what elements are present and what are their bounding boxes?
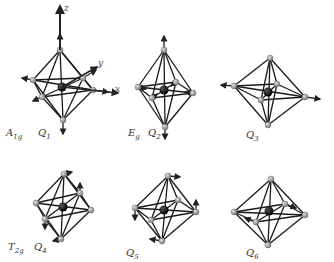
ligand-atom-front: [42, 216, 48, 222]
edge: [135, 208, 162, 241]
mode-panels: [22, 34, 320, 248]
ligand-atom-bottom: [265, 122, 271, 128]
ligand-atom-bottom: [58, 236, 64, 242]
ligand-atom-left: [132, 205, 138, 211]
ligand-atom-back: [77, 190, 83, 196]
edge: [168, 176, 196, 212]
ligand-atom-front: [39, 94, 45, 100]
edge: [63, 90, 93, 120]
edge: [33, 50, 60, 80]
ligand-atom-back: [282, 201, 288, 207]
ligand-atom-bottom: [60, 117, 66, 123]
label-t2g: T2g: [8, 242, 24, 255]
edge: [42, 97, 63, 120]
label-q1: Q1: [38, 128, 51, 141]
ligand-atom-bottom: [162, 124, 168, 130]
edge: [152, 98, 165, 127]
edge: [234, 84, 277, 86]
octahedron-q5: [132, 173, 199, 244]
octahedron-q1: [22, 34, 108, 134]
axis-label-x: x: [115, 85, 120, 94]
central-atom: [265, 207, 274, 216]
ligand-atom-right: [190, 90, 196, 96]
ligand-atom-left: [231, 209, 237, 215]
ligand-atom-right: [193, 209, 199, 215]
ligand-atom-back: [274, 81, 280, 87]
ligand-atom-left: [33, 200, 39, 206]
central-atom: [160, 86, 169, 95]
axis-label-z: z: [64, 4, 69, 13]
label-q5: Q5: [126, 248, 139, 261]
octahedron-q4: [33, 171, 94, 242]
label-q3: Q3: [246, 130, 259, 143]
ligand-atom-top: [165, 173, 171, 179]
ligand-atom-front: [148, 217, 154, 223]
label-q4: Q4: [34, 242, 47, 255]
edge: [168, 176, 178, 200]
edge: [45, 219, 61, 239]
ligand-atom-bottom: [159, 238, 165, 244]
edge: [234, 212, 268, 245]
edge: [261, 97, 305, 100]
label-q2: Q2: [148, 128, 161, 141]
central-atom: [59, 203, 68, 212]
ligand-atom-left: [135, 84, 141, 90]
central-atom: [160, 206, 169, 215]
ligand-atom-front: [253, 219, 259, 225]
ligand-atom-bottom: [265, 242, 271, 248]
ligand-atom-top: [61, 171, 67, 177]
ligand-atom-right: [88, 207, 94, 213]
ligand-atom-back: [173, 79, 179, 85]
edge: [138, 50, 164, 87]
label-a1g: A1g: [6, 128, 22, 141]
ligand-atom-front: [258, 97, 264, 103]
edge: [36, 174, 64, 203]
coordinate-axes: [60, 6, 118, 93]
ligand-atom-left: [30, 77, 36, 83]
ligand-atom-right: [302, 94, 308, 100]
ligand-atom-back: [175, 197, 181, 203]
octahedron-q3: [221, 55, 320, 128]
edge: [256, 222, 268, 245]
octahedron-q2: [135, 36, 196, 139]
ligand-atom-top: [161, 47, 167, 53]
ligand-atom-top: [267, 55, 273, 61]
ligand-atom-top: [268, 176, 274, 182]
ligand-atom-left: [231, 83, 237, 89]
edge: [178, 200, 196, 212]
label-eg: Eg: [128, 128, 140, 141]
ligand-atom-right: [302, 212, 308, 218]
octahedron-q6: [231, 176, 308, 248]
axis-label-y: y: [98, 59, 103, 68]
label-q6: Q6: [246, 248, 259, 261]
central-atom: [264, 88, 273, 97]
ligand-atom-front: [149, 95, 155, 101]
